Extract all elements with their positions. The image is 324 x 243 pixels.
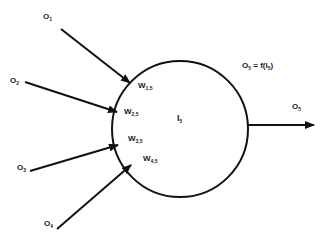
output-label-o5: O5 bbox=[292, 103, 301, 111]
weight-label-w35-sub: 3,5 bbox=[136, 138, 143, 144]
weight-label-w15-main: W bbox=[138, 81, 146, 90]
weight-label-w15: W1,5 bbox=[138, 82, 153, 90]
activation-formula: O5 = f(I5) bbox=[242, 62, 273, 70]
weight-label-w45-sub: 4,5 bbox=[151, 158, 158, 164]
weight-label-w35-main: W bbox=[128, 134, 136, 143]
input-arrow-2 bbox=[25, 82, 117, 112]
input-label-o3: O3 bbox=[17, 164, 26, 172]
output-label-o5-sub: 5 bbox=[298, 106, 301, 112]
weight-label-w45-main: W bbox=[143, 154, 151, 163]
formula-mid: = f(I bbox=[251, 61, 268, 70]
weight-label-w15-sub: 1,5 bbox=[146, 85, 153, 91]
input-label-o4: O4 bbox=[44, 220, 53, 228]
input-arrow-4 bbox=[57, 165, 131, 229]
neuron-input-label-sub: 5 bbox=[180, 118, 183, 124]
neuron-input-label: I5 bbox=[177, 114, 182, 123]
neuron-diagram bbox=[0, 0, 324, 243]
input-arrow-3 bbox=[30, 145, 118, 171]
input-label-o1: O1 bbox=[43, 13, 52, 21]
weight-label-w25-sub: 2,5 bbox=[132, 111, 139, 117]
input-label-o1-sub: 1 bbox=[49, 16, 52, 22]
neuron-circle bbox=[112, 61, 248, 197]
input-arrow-1 bbox=[61, 29, 130, 83]
input-label-o4-sub: 4 bbox=[50, 223, 53, 229]
weight-label-w45: W4,5 bbox=[143, 155, 158, 163]
formula-end: ) bbox=[270, 61, 273, 70]
weight-label-w25: W2,5 bbox=[124, 108, 139, 116]
weight-label-w25-main: W bbox=[124, 107, 132, 116]
input-label-o2-sub: 2 bbox=[16, 80, 19, 86]
weight-label-w35: W3,5 bbox=[128, 135, 143, 143]
input-label-o2: O2 bbox=[10, 77, 19, 85]
input-label-o3-sub: 3 bbox=[23, 167, 26, 173]
